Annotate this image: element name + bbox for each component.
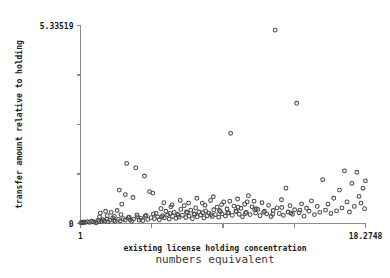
y-tick-label-max: 5.33519 xyxy=(40,22,74,31)
data-point xyxy=(119,213,123,217)
data-point xyxy=(252,199,256,203)
y-axis-title: transfer amount relative to holding xyxy=(14,40,24,209)
data-point xyxy=(232,204,236,208)
data-point xyxy=(273,28,277,32)
data-point xyxy=(359,201,363,205)
data-point xyxy=(104,209,108,213)
data-point xyxy=(326,202,330,206)
data-point xyxy=(363,207,367,211)
data-point xyxy=(203,203,207,207)
data-point xyxy=(260,201,264,205)
data-point xyxy=(343,169,347,173)
data-point xyxy=(229,131,233,135)
data-point xyxy=(315,205,319,209)
data-point xyxy=(329,212,333,216)
data-point xyxy=(338,188,342,192)
data-point xyxy=(293,208,297,212)
data-point xyxy=(352,205,356,209)
data-point xyxy=(120,202,124,206)
data-point xyxy=(271,209,275,213)
data-point xyxy=(179,208,183,212)
data-point xyxy=(277,212,281,216)
data-point xyxy=(288,204,292,208)
data-point xyxy=(245,200,249,204)
data-point xyxy=(350,182,354,186)
data-point xyxy=(228,199,232,203)
data-point xyxy=(211,195,215,199)
data-point xyxy=(143,174,147,178)
x-axis-title: existing license holding concentration xyxy=(123,243,306,253)
data-point xyxy=(364,179,368,183)
data-point xyxy=(194,206,198,210)
data-point xyxy=(302,214,306,218)
data-point xyxy=(361,186,365,190)
data-point xyxy=(162,201,166,205)
data-point xyxy=(152,212,156,216)
data-point xyxy=(355,170,359,174)
data-point xyxy=(280,206,284,210)
data-points-group xyxy=(79,28,367,224)
data-point xyxy=(282,213,286,217)
data-point xyxy=(280,198,284,202)
data-point xyxy=(335,209,339,213)
data-point xyxy=(151,191,155,195)
data-point xyxy=(98,215,102,219)
chart-canvas: 5.335190118.2748existing license holding… xyxy=(0,0,390,278)
scatter-plot-figure: 5.335190118.2748existing license holding… xyxy=(0,0,390,278)
data-point xyxy=(115,209,119,213)
data-point xyxy=(117,188,121,192)
data-point xyxy=(267,203,271,207)
data-point xyxy=(189,208,193,212)
data-point xyxy=(307,209,311,213)
data-point xyxy=(217,215,221,219)
data-point xyxy=(98,211,102,215)
data-point xyxy=(182,204,186,208)
data-point xyxy=(109,210,113,214)
x-tick-label-max: 18.2748 xyxy=(349,232,383,241)
data-point xyxy=(321,178,325,182)
data-point xyxy=(190,217,194,221)
data-point xyxy=(295,101,299,105)
data-point xyxy=(318,210,322,214)
data-point xyxy=(187,201,191,205)
data-point xyxy=(345,200,349,204)
data-point xyxy=(195,196,199,200)
y-tick-label-min: 0 xyxy=(69,220,74,229)
data-point xyxy=(340,206,344,210)
data-point xyxy=(332,196,336,200)
data-point xyxy=(159,207,163,211)
data-point xyxy=(300,202,304,206)
data-point xyxy=(134,166,138,170)
ticks-group xyxy=(77,26,366,228)
data-point xyxy=(209,199,213,203)
data-point xyxy=(125,161,129,165)
data-point xyxy=(220,203,224,207)
data-point xyxy=(348,210,352,214)
data-point xyxy=(324,208,328,212)
data-point xyxy=(236,197,240,201)
data-point xyxy=(123,193,127,197)
data-point xyxy=(241,215,245,219)
data-point xyxy=(230,213,234,217)
data-point xyxy=(275,206,279,210)
data-point xyxy=(357,195,361,199)
data-point xyxy=(258,214,262,218)
data-point xyxy=(310,199,314,203)
x-tick-label-min: 1 xyxy=(78,232,83,241)
data-point xyxy=(248,213,252,217)
data-point xyxy=(247,194,251,198)
data-point xyxy=(178,199,182,203)
x-axis-title-secondary: numbers equivalent xyxy=(155,253,274,266)
axis-labels-group: 5.335190118.2748existing license holding… xyxy=(14,22,383,266)
data-point xyxy=(131,196,135,200)
data-point xyxy=(313,213,317,217)
data-point xyxy=(284,186,288,190)
